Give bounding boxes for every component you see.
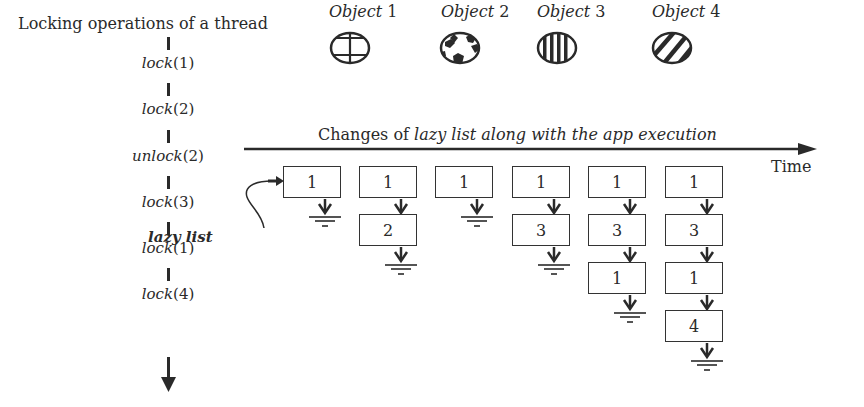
list-node: 1 [665, 262, 723, 294]
list-node: 4 [665, 310, 723, 342]
null-terminator-icon [691, 361, 723, 370]
list-node: 1 [283, 166, 341, 198]
time-axis-arrow [244, 143, 817, 155]
next-pointer-arrow [395, 199, 407, 213]
null-terminator-icon [461, 217, 493, 226]
next-pointer-arrow [319, 199, 331, 213]
null-terminator-icon [614, 313, 646, 322]
null-terminator-icon [309, 217, 341, 226]
list-node: 1 [588, 166, 646, 198]
next-pointer-arrow [624, 295, 636, 309]
next-pointer-arrow [701, 199, 713, 213]
next-pointer-arrow [548, 247, 560, 261]
list-node: 3 [665, 214, 723, 246]
next-pointer-arrow [701, 247, 713, 261]
list-node: 1 [435, 166, 493, 198]
object-3-icon [538, 33, 576, 65]
list-node: 3 [512, 214, 570, 246]
next-pointer-arrow [548, 199, 560, 213]
null-terminator-icon [538, 265, 570, 274]
object-4-icon [650, 30, 698, 72]
object-2-icon [441, 33, 480, 64]
next-pointer-arrow [701, 343, 713, 357]
next-pointer-arrow [624, 247, 636, 261]
list-node: 1 [665, 166, 723, 198]
thread-down-arrow [161, 357, 176, 392]
next-pointer-arrow [471, 199, 483, 213]
list-node: 3 [588, 214, 646, 246]
next-pointer-arrow [701, 295, 713, 309]
object-1-icon [331, 33, 369, 63]
next-pointer-arrow [395, 247, 407, 261]
next-pointer-arrow [624, 199, 636, 213]
diagram-graphics [0, 0, 864, 407]
null-terminator-icon [385, 265, 417, 274]
lazy-list-pointer [246, 176, 284, 228]
list-node: 1 [359, 166, 417, 198]
list-node: 2 [359, 214, 417, 246]
list-node: 1 [512, 166, 570, 198]
list-node: 1 [588, 262, 646, 294]
